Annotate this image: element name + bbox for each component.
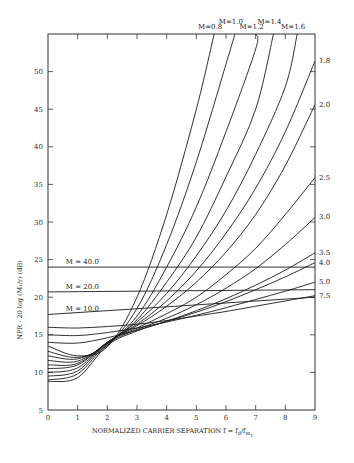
curve-label: M = 10.0 <box>66 305 99 313</box>
curve-label: M = 20.0 <box>66 283 99 291</box>
curve-label: 5.0 <box>319 278 330 286</box>
curve-label: M=1.6 <box>281 23 306 31</box>
y-tick-label: 15 <box>34 331 43 339</box>
curve-label: 2.0 <box>319 101 330 109</box>
plot-frame <box>48 34 315 410</box>
curve-label: 2.5 <box>319 174 330 182</box>
x-tick-label: 8 <box>283 414 287 422</box>
plot-border <box>48 34 315 410</box>
curve-label: M = 40.0 <box>66 258 99 266</box>
x-tick-label: 1 <box>75 414 79 422</box>
curve-2.5 <box>48 178 315 377</box>
x-tick-label: 7 <box>253 414 257 422</box>
x-tick-label: 3 <box>135 414 139 422</box>
x-tick-label: 5 <box>194 414 198 422</box>
x-tick-label: 6 <box>224 414 229 422</box>
x-axis-title: NORMALIZED CARRIER SEPARATION f = fd/fm1 <box>92 427 253 438</box>
curve-label: 7.5 <box>319 292 330 300</box>
y-tick-label: 5 <box>39 407 43 415</box>
y-tick-label: 10 <box>34 369 43 377</box>
y-tick-label: 25 <box>34 256 43 264</box>
curve-label: 3.0 <box>319 213 330 221</box>
curves <box>48 34 315 382</box>
curve-1.8 <box>48 61 315 369</box>
x-tick-label: 9 <box>313 414 317 422</box>
npr-chart: 01234567895101520253035404550 M=0.8M=1.0… <box>0 0 354 463</box>
y-tick-label: 50 <box>34 68 43 76</box>
y-tick-label: 35 <box>34 181 43 189</box>
x-tick-label: 4 <box>164 414 169 422</box>
curve-label: 3.5 <box>319 249 330 257</box>
y-tick-label: 40 <box>34 143 43 151</box>
y-tick-label: 45 <box>34 106 43 114</box>
curve-label: 4.0 <box>319 259 330 267</box>
x-tick-label: 0 <box>46 414 50 422</box>
y-tick-label: 20 <box>34 294 43 302</box>
y-tick-label: 30 <box>34 219 43 227</box>
x-tick-label: 2 <box>105 414 109 422</box>
curve-label: M=1.4 <box>257 18 282 26</box>
curve-label: 1.8 <box>319 57 330 65</box>
y-axis-title: NPR - 20 log (M₁/r) (dB) <box>16 260 24 340</box>
